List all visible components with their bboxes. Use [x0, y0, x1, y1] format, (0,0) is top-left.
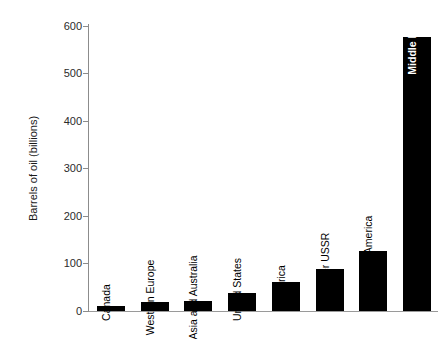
y-axis-tick-labels: 0100200300400500600: [52, 0, 82, 335]
bar-label: Western Europe: [144, 260, 155, 336]
y-axis-tick-mark: [83, 263, 89, 264]
y-axis-tick-mark: [83, 121, 89, 122]
y-axis-tick-label: 0: [52, 305, 82, 317]
bar: [403, 37, 431, 311]
bar-label: Canada: [100, 284, 111, 321]
bar-group: Western Europe: [141, 24, 169, 311]
bar-group: Asia and Australia: [184, 24, 212, 311]
bar-group: Latin America: [359, 24, 387, 311]
y-axis-tick-mark: [83, 26, 89, 27]
y-axis-tick-label: 400: [52, 115, 82, 127]
bar-group: Canada: [97, 24, 125, 311]
y-axis-tick-mark: [83, 73, 89, 74]
bar-label: Asia and Australia: [188, 255, 199, 339]
y-axis-tick-mark: [83, 311, 89, 312]
bar-label: Former USSR: [319, 232, 330, 298]
bar-label: Latin America: [363, 215, 374, 279]
y-axis-tick-label: 300: [52, 162, 82, 174]
bar-label: United States: [232, 258, 243, 321]
bar-group: Former USSR: [316, 24, 344, 311]
bar-group: United States: [228, 24, 256, 311]
plot-area: CanadaWestern EuropeAsia and AustraliaUn…: [89, 24, 439, 311]
y-axis-title: Barrels of oil (billions): [27, 26, 41, 311]
bar-label: Africa: [275, 265, 286, 292]
y-axis-tick-label: 600: [52, 20, 82, 32]
y-axis-tick-label: 500: [52, 67, 82, 79]
bar-label: Middle East: [407, 16, 418, 74]
x-axis-baseline: [88, 311, 438, 312]
y-axis-tick-label: 200: [52, 210, 82, 222]
y-axis-tick-mark: [83, 168, 89, 169]
bar-group: Africa: [272, 24, 300, 311]
y-axis-tick-mark: [83, 216, 89, 217]
bar-group: Middle East: [403, 24, 431, 311]
y-axis-tick-label: 100: [52, 257, 82, 269]
